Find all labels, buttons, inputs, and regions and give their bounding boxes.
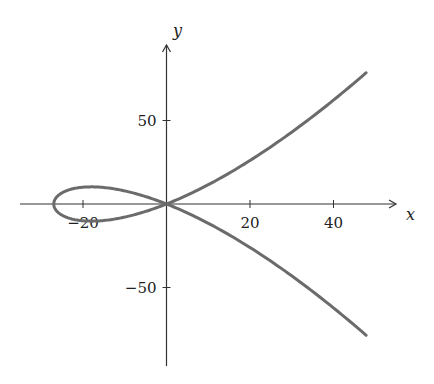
y-axis-label: y (172, 21, 183, 40)
x-tick-label: 40 (324, 214, 343, 232)
x-tick-label: 20 (240, 214, 259, 232)
plot-area: −202040 50−50 x y (0, 0, 434, 384)
axes: −202040 50−50 x y (20, 21, 415, 366)
x-axis-label: x (406, 205, 415, 224)
y-tick-label: −50 (125, 279, 157, 297)
y-tick-label: 50 (137, 112, 156, 130)
x-tick-label: −20 (67, 214, 99, 232)
x-ticks: −202040 (67, 200, 343, 232)
